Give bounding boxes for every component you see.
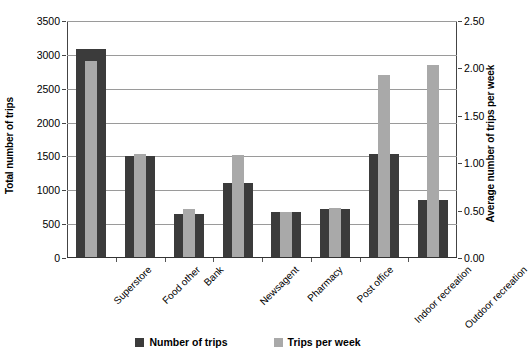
y-axis-left-tick-mark: [62, 21, 66, 22]
bar-group: [408, 21, 457, 258]
y-axis-right-title: Average number of trips per week: [485, 73, 496, 223]
bar-trips-per-week: [427, 65, 439, 258]
x-axis-label: Food other: [160, 264, 202, 306]
y-axis-right-tick-mark: [458, 258, 462, 259]
x-axis-label: Indoor recreation: [412, 264, 473, 325]
legend-label: Number of trips: [149, 336, 227, 348]
x-axis-tick-mark: [408, 258, 409, 262]
bar-group: [116, 21, 165, 258]
x-axis-tick-mark: [311, 258, 312, 262]
x-axis-tick-mark: [360, 258, 361, 262]
x-axis-label: Superstore: [112, 264, 154, 306]
y-axis-right-tick-label: 0.50: [464, 205, 484, 216]
legend-swatch-icon: [274, 338, 283, 347]
y-axis-left-tick-mark: [62, 55, 66, 56]
y-axis-right-tick-mark: [458, 211, 462, 212]
legend-swatch-icon: [135, 338, 144, 347]
x-axis-line: [67, 257, 457, 259]
y-axis-left-tick-label: 1000: [37, 185, 60, 196]
bar-group: [165, 21, 214, 258]
x-axis-label: Pharmacy: [305, 264, 345, 304]
legend-item: Trips per week: [274, 336, 361, 348]
y-axis-left-tick-label: 2500: [37, 83, 60, 94]
bar-trips-per-week: [85, 61, 97, 258]
bar-group: [360, 21, 409, 258]
x-axis-label: Outdoor recreation: [463, 264, 530, 331]
y-axis-left-tick-mark: [62, 123, 66, 124]
bar-group: [67, 21, 116, 258]
x-axis-label: Newsagent: [258, 264, 301, 307]
bar-trips-per-week: [183, 209, 195, 258]
x-axis-label: Post office: [355, 264, 396, 305]
x-axis-label: Bank: [201, 264, 225, 288]
y-axis-left-tick-mark: [62, 190, 66, 191]
x-axis-tick-mark: [116, 258, 117, 262]
y-axis-left-tick-label: 0: [54, 253, 60, 264]
bar-group: [213, 21, 262, 258]
y-axis-left-tick-label: 2000: [37, 117, 60, 128]
y-axis-left-tick-mark: [62, 258, 66, 259]
y-axis-right-tick-mark: [458, 163, 462, 164]
bar-trips-per-week: [134, 154, 146, 258]
x-axis-tick-mark: [165, 258, 166, 262]
y-axis-left-tick-mark: [62, 89, 66, 90]
bar-group: [311, 21, 360, 258]
y-axis-left-tick-label: 500: [42, 219, 60, 230]
bar-trips-per-week: [329, 208, 341, 258]
y-axis-right-tick-mark: [458, 21, 462, 22]
y-axis-right-tick-mark: [458, 68, 462, 69]
y-axis-left-tick-label: 1500: [37, 151, 60, 162]
y-axis-left-title: Total number of trips: [4, 86, 15, 206]
y-axis-right-tick-label: 0.00: [464, 253, 484, 264]
y-axis-left-tick-mark: [62, 156, 66, 157]
plot-area: 0500100015002000250030003500 0.000.501.0…: [67, 21, 457, 258]
bar-trips-per-week: [378, 75, 390, 258]
y-axis-right-tick-label: 1.50: [464, 111, 484, 122]
bar-trips-per-week: [232, 155, 244, 258]
y-axis-right-tick-label: 1.00: [464, 158, 484, 169]
chart-legend: Number of tripsTrips per week: [0, 336, 496, 348]
x-axis-tick-mark: [213, 258, 214, 262]
y-axis-right-tick-mark: [458, 116, 462, 117]
bar-trips-per-week: [280, 212, 292, 258]
y-axis-left-tick-mark: [62, 224, 66, 225]
x-axis-tick-mark: [262, 258, 263, 262]
legend-label: Trips per week: [288, 336, 361, 348]
bar-group: [262, 21, 311, 258]
y-axis-right-tick-label: 2.50: [464, 16, 484, 27]
legend-item: Number of trips: [135, 336, 227, 348]
y-axis-left-tick-label: 3000: [37, 50, 60, 61]
y-axis-right-tick-label: 2.00: [464, 63, 484, 74]
y-axis-left-tick-label: 3500: [37, 16, 60, 27]
